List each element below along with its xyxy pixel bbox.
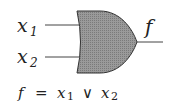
input-label-x2: x 2 (17, 45, 38, 70)
or-gate-body (77, 11, 137, 73)
or-gate-diagram: x 1 x 2 f f = x 1 ∨ x 2 (0, 0, 171, 109)
svg-text:x: x (101, 84, 110, 102)
svg-text:1: 1 (30, 25, 38, 39)
input-label-x1: x 1 (17, 14, 38, 39)
formula: f = x 1 ∨ x 2 (17, 84, 118, 103)
svg-text:=: = (35, 84, 48, 102)
svg-text:∨: ∨ (82, 84, 93, 102)
svg-text:1: 1 (67, 90, 74, 103)
svg-text:2: 2 (111, 90, 118, 103)
svg-text:x: x (57, 84, 66, 102)
svg-text:x: x (17, 14, 28, 36)
output-label-f: f (143, 15, 156, 39)
svg-text:x: x (17, 45, 28, 67)
svg-text:2: 2 (29, 56, 38, 70)
svg-text:f: f (17, 84, 26, 102)
